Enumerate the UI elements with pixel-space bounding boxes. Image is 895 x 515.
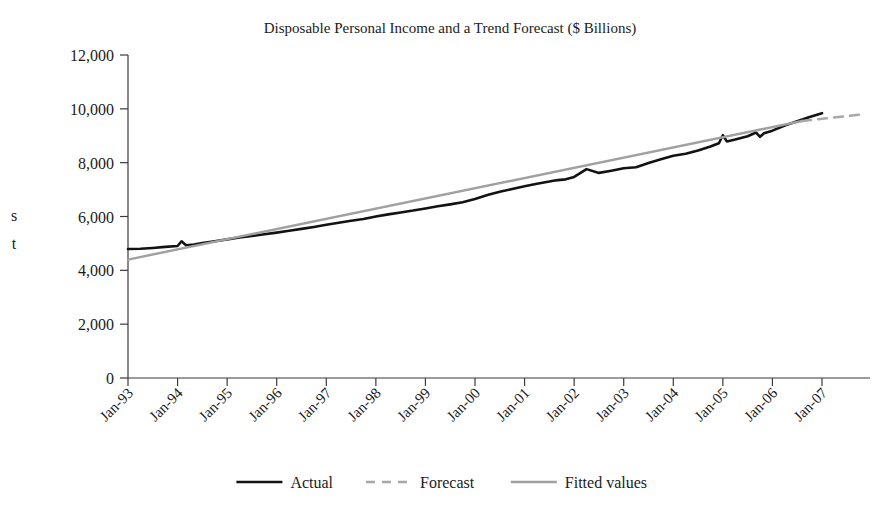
y-tick-label: 12,000 (70, 47, 114, 64)
y-tick-label: 4,000 (78, 262, 114, 279)
legend-label-forecast: Forecast (420, 474, 475, 491)
y-tick-label: 8,000 (78, 155, 114, 172)
chart-figure: Disposable Personal Income and a Trend F… (0, 0, 895, 515)
legend-label-fitted-values: Fitted values (565, 474, 647, 491)
chart-legend: ActualForecastFitted values (236, 474, 647, 491)
y-tick-label: 10,000 (70, 101, 114, 118)
legend-label-actual: Actual (290, 474, 333, 491)
y-axis-title-fragment-1: s (11, 207, 17, 224)
y-tick-label: 2,000 (78, 316, 114, 333)
y-tick-label: 0 (106, 370, 114, 387)
chart-title: Disposable Personal Income and a Trend F… (264, 20, 636, 37)
y-axis-title-fragment-2: t (12, 235, 17, 252)
y-tick-label: 6,000 (78, 209, 114, 226)
disposable-personal-income-line-chart: Disposable Personal Income and a Trend F… (0, 0, 895, 515)
